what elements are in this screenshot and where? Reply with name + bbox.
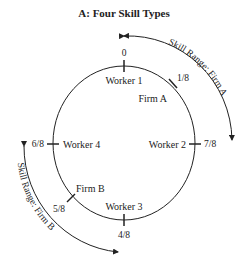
tick-label-2-8: 7/8 [204, 139, 216, 149]
tick-label-0: 0 [122, 48, 127, 58]
skill-circle-diagram: A: Four Skill Types 0 1/8 7/8 4/8 5/8 6/… [0, 0, 248, 263]
tick-label-6-8: 6/8 [32, 139, 44, 149]
worker-1-label: Worker 1 [105, 75, 142, 86]
diagram-title: A: Four Skill Types [78, 7, 170, 19]
firm-b-label: Firm B [76, 183, 105, 194]
firm-a-label: Firm A [138, 93, 167, 104]
tick-label-1-8: 1/8 [177, 73, 189, 83]
worker-2-label: Worker 2 [149, 139, 186, 150]
tick-label-5-8: 5/8 [53, 204, 65, 214]
worker-4-label: Worker 4 [63, 139, 100, 150]
tick-label-4-8: 4/8 [118, 230, 130, 240]
worker-3-label: Worker 3 [105, 201, 142, 212]
